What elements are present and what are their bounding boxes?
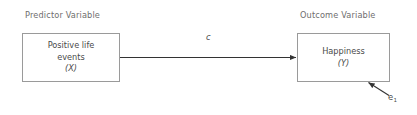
error-term-label: e1 (388, 93, 397, 102)
diagram-canvas: Predictor Variable Outcome Variable Posi… (0, 0, 417, 115)
outcome-variable-box: Happiness (Y) (297, 33, 390, 82)
direct-path-coefficient-label: c (206, 33, 211, 41)
predictor-variable-header: Predictor Variable (25, 11, 100, 19)
outcome-variable-header: Outcome Variable (300, 11, 376, 19)
outcome-label-line1: Happiness (322, 46, 365, 58)
predictor-variable-symbol: (X) (65, 63, 77, 75)
predictor-variable-box: Positive life events (X) (22, 33, 120, 82)
error-term-subscript: 1 (393, 97, 397, 103)
outcome-variable-symbol: (Y) (338, 58, 349, 70)
predictor-label-line2: events (57, 52, 85, 64)
predictor-label-line1: Positive life (48, 40, 95, 52)
error-path-arrow (369, 83, 390, 96)
